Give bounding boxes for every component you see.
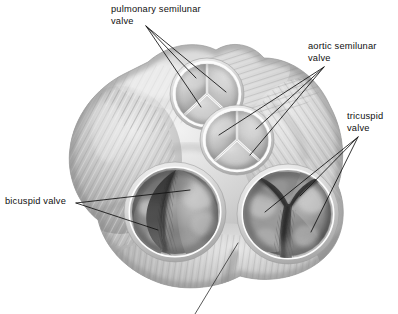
tricuspid-valve-structure <box>237 164 339 264</box>
label-bicuspid-valve: bicuspid valve <box>5 196 66 208</box>
label-aortic-semilunar-valve: aortic semilunar valve <box>308 41 377 64</box>
label-pulmonary-semilunar-valve: pulmonary semilunar valve <box>111 4 201 27</box>
heart-valves-figure: pulmonary semilunar valve aortic semilun… <box>0 0 398 314</box>
label-tricuspid-valve: tricuspid valve <box>347 111 383 134</box>
aortic-semilunar-valve-structure <box>199 105 276 175</box>
bicuspid-valve-structure <box>124 162 226 262</box>
